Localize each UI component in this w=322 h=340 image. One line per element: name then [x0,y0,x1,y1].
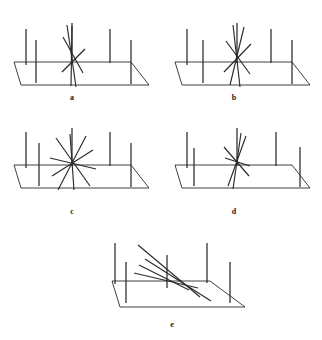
panel-label-c: c [70,207,74,216]
right-edge-b [292,62,310,85]
figure-panel-c: c [14,128,149,216]
bundle-line-4-c [50,158,96,169]
right-edge-a [131,62,149,85]
vertical-posts-e [115,243,230,303]
bundle-line-2-a [71,26,72,86]
figure-panel-b: b [175,23,310,102]
panel-label-d: d [232,207,237,216]
ground-plane-b [175,62,310,85]
panel-label-b: b [232,93,237,102]
figure-panel-e: e [112,243,245,329]
vertical-posts-a [26,23,131,84]
bundle-line-2-e [145,259,211,301]
vertical-posts-c [26,128,131,187]
line-bundle-a [62,25,85,87]
vertical-posts-d [187,128,300,187]
line-bundle-c [50,134,96,190]
bundle-line-3-e [134,273,198,288]
left-edge-b [175,62,182,85]
line-bundle-e [134,245,211,301]
left-edge-c [14,165,21,188]
left-edge-e [112,281,120,307]
right-edge-d [292,165,310,188]
bundle-line-1-e [138,245,200,297]
ground-plane-c [14,165,149,188]
figure-sheet: abcde [0,0,322,340]
figure-panel-d: d [175,128,310,216]
right-edge-c [131,165,149,188]
panel-label-a: a [70,93,74,102]
vertical-posts-b [187,23,292,84]
ground-plane-a [14,62,149,85]
left-edge-d [175,165,182,188]
right-edge-e [210,281,245,307]
panel-label-e: e [170,320,174,329]
left-edge-a [14,62,21,85]
bundle-line-4-e [139,265,189,290]
figure-panel-a: a [14,23,149,102]
